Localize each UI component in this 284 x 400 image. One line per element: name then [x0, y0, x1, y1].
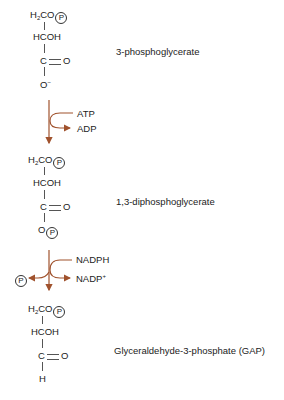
c1-row2: HCOH — [33, 32, 61, 42]
phosphate-icon: P — [53, 306, 65, 318]
compound-label: 1,3-diphosphoglycerate — [116, 196, 215, 207]
c2-row2: HCOH — [33, 178, 61, 188]
compound-label: Glyceraldehyde-3-phosphate (GAP) — [114, 345, 265, 356]
c1-row4: O− — [40, 79, 51, 90]
product-adp: ADP — [77, 123, 97, 134]
side-product-phosphate: P — [14, 273, 27, 287]
phosphate-icon: P — [46, 227, 58, 239]
c2-row3: C — [40, 202, 47, 212]
reactant-nadph: NADPH — [76, 254, 109, 265]
phosphate-icon: P — [53, 157, 65, 169]
c3-row2: HCOH — [31, 327, 59, 337]
c1-row3: C — [40, 56, 47, 66]
c3-row3-o: O — [61, 351, 68, 361]
c1-row1: H2COP — [30, 10, 67, 24]
c3-row1: H2COP — [28, 304, 65, 318]
c2-row1: H2COP — [28, 155, 65, 169]
compound-label: 3-phosphoglycerate — [116, 46, 199, 57]
c3-row4: H — [39, 374, 46, 384]
c2-row4: OP — [38, 225, 58, 239]
phosphate-icon: P — [15, 275, 27, 287]
c3-row3: C — [38, 351, 45, 361]
c2-row3-o: O — [63, 202, 70, 212]
reactant-atp: ATP — [77, 108, 95, 119]
c1-row3-o: O — [63, 56, 70, 66]
product-nadp: NADP+ — [76, 273, 106, 284]
phosphate-icon: P — [55, 12, 67, 24]
